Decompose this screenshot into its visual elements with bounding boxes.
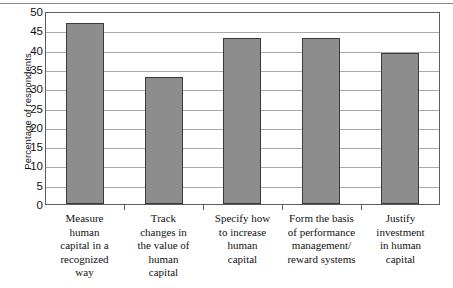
bar-series xyxy=(46,13,439,204)
category-label: Measure human capital in a recognized wa… xyxy=(45,212,124,280)
y-tick-label: 35 xyxy=(16,64,43,76)
bar xyxy=(223,38,261,204)
bar-slot xyxy=(360,13,439,204)
x-axis-category-labels: Measure human capital in a recognized wa… xyxy=(45,212,440,280)
plot-area xyxy=(45,12,440,205)
x-tick xyxy=(203,205,204,210)
y-tick-label: 15 xyxy=(16,141,43,153)
bar xyxy=(381,53,419,204)
bar-slot xyxy=(46,13,125,204)
bar-slot xyxy=(282,13,361,204)
category-label: Track changes in the value of human capi… xyxy=(124,212,203,280)
bar xyxy=(145,77,183,204)
x-tick xyxy=(282,205,283,210)
bar xyxy=(302,38,340,204)
x-tick xyxy=(124,205,125,210)
x-tick xyxy=(361,205,362,210)
y-tick-label: 25 xyxy=(16,103,43,115)
y-tick-label: 30 xyxy=(16,83,43,95)
y-axis-tick-labels: 05101520253035404550 xyxy=(16,12,43,205)
y-tick-label: 45 xyxy=(16,25,43,37)
bar xyxy=(66,23,104,204)
x-axis-ticks xyxy=(45,205,440,211)
y-tick-label: 0 xyxy=(16,199,43,211)
bar-chart-figure: Percentage of respondents 05101520253035… xyxy=(0,0,453,288)
bar-slot xyxy=(203,13,282,204)
category-label: Form the basis of performance management… xyxy=(282,212,361,280)
page-top-rule xyxy=(0,3,453,4)
y-tick-label: 20 xyxy=(16,122,43,134)
bar-slot xyxy=(125,13,204,204)
y-tick-label: 10 xyxy=(16,160,43,172)
y-tick-label: 40 xyxy=(16,45,43,57)
category-label: Specify how to increase human capital xyxy=(203,212,282,280)
category-label: Justify investment in human capital xyxy=(361,212,440,280)
y-tick-label: 50 xyxy=(16,6,43,18)
y-tick-label: 5 xyxy=(16,180,43,192)
